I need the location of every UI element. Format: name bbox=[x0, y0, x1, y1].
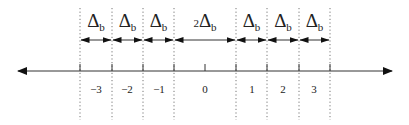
delta-symbol: Δ bbox=[243, 10, 255, 31]
tick-labels: −3−2−10123 bbox=[90, 83, 317, 95]
subscript-b: b bbox=[255, 21, 261, 33]
interval: Δb bbox=[144, 10, 173, 40]
interval: Δb bbox=[237, 10, 266, 40]
interval-label: Δb bbox=[87, 10, 105, 33]
number-line-diagram: ΔbΔbΔb2ΔbΔbΔbΔb −3−2−10123 bbox=[0, 0, 409, 125]
axis-ticks bbox=[80, 64, 330, 71]
interval: Δb bbox=[113, 10, 142, 40]
subscript-b: b bbox=[211, 21, 217, 33]
interval-label: Δb bbox=[306, 10, 324, 33]
delta-symbol: Δ bbox=[199, 10, 211, 31]
interval: Δb bbox=[300, 10, 329, 40]
interval: 2Δb bbox=[175, 10, 235, 40]
interval-arrows: ΔbΔbΔb2ΔbΔbΔbΔb bbox=[81, 10, 329, 40]
subscript-b: b bbox=[162, 21, 168, 33]
delta-symbol: Δ bbox=[87, 10, 99, 31]
tick-label: −3 bbox=[90, 83, 102, 95]
interval-label: Δb bbox=[119, 10, 137, 33]
delta-symbol: Δ bbox=[306, 10, 318, 31]
tick-label: 0 bbox=[202, 83, 208, 95]
interval: Δb bbox=[81, 10, 111, 40]
subscript-b: b bbox=[131, 21, 137, 33]
delta-symbol: Δ bbox=[150, 10, 162, 31]
interval-label: Δb bbox=[150, 10, 168, 33]
interval-label: Δb bbox=[243, 10, 261, 33]
tick-label: −2 bbox=[121, 83, 133, 95]
interval-label: 2Δb bbox=[193, 10, 217, 33]
subscript-b: b bbox=[318, 21, 324, 33]
subscript-b: b bbox=[286, 21, 292, 33]
tick-label: 3 bbox=[311, 83, 317, 95]
subscript-b: b bbox=[99, 21, 105, 33]
diagram-svg: ΔbΔbΔb2ΔbΔbΔbΔb −3−2−10123 bbox=[0, 0, 409, 125]
tick-label: 1 bbox=[249, 83, 255, 95]
tick-label: 2 bbox=[280, 83, 286, 95]
delta-symbol: Δ bbox=[119, 10, 131, 31]
tick-label: −1 bbox=[153, 83, 165, 95]
delta-symbol: Δ bbox=[274, 10, 286, 31]
interval: Δb bbox=[268, 10, 298, 40]
interval-label: Δb bbox=[274, 10, 292, 33]
